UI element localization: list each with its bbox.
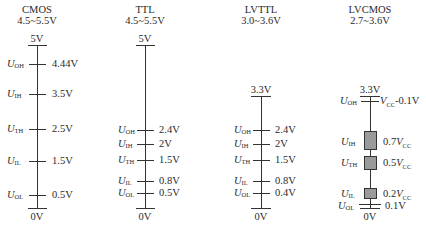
lvcmos-uol-label: UOL (338, 200, 354, 213)
lvcmos-uih-label: UIH (341, 136, 355, 149)
lvcmos-uoh-tick (361, 101, 379, 102)
lvcmos-column: LVCMOS 2.7~3.6V 3.3V 0V UOH VCC-0.1V UIH… (0, 0, 426, 230)
lvcmos-bottom-rail (360, 208, 380, 209)
lvcmos-uth-label: UTH (341, 157, 357, 170)
lvcmos-uoh-label: UOH (340, 95, 357, 108)
lvcmos-uol-tick (359, 204, 381, 205)
lvcmos-uih-box (364, 131, 377, 150)
lvcmos-range: 2.7~3.6V (325, 15, 415, 26)
lvcmos-top-label: 3.3V (325, 84, 415, 95)
lvcmos-uth-box (364, 156, 377, 170)
lvcmos-uoh-value: VCC-0.1V (380, 95, 419, 110)
lvcmos-uth-value: 0.5VCC (383, 157, 411, 172)
lvcmos-uol-value: 0.1V (385, 200, 406, 211)
lvcmos-uil-box (364, 188, 377, 199)
lvcmos-uih-value: 0.7VCC (383, 136, 411, 151)
lvcmos-title: LVCMOS (325, 4, 415, 15)
